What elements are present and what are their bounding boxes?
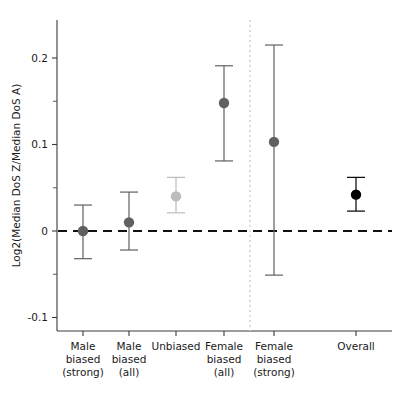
x-tick-label: Malebiased(all): [112, 340, 147, 378]
axes-layer: [52, 20, 392, 336]
figure-panel: 0.20.10-0.1Log2(Median DoS Z/Median DoS …: [0, 0, 398, 393]
data-point-group: [120, 192, 138, 250]
x-tick-label: Femalebiased(strong): [253, 340, 295, 378]
data-point-group: [347, 177, 365, 211]
y-axis-label: Log2(Median DoS Z/Median DoS A): [10, 84, 22, 268]
data-point-group: [215, 66, 233, 161]
data-point-marker: [351, 189, 361, 199]
data-point-marker: [124, 217, 134, 227]
data-point-marker: [269, 137, 279, 147]
data-point-group: [265, 45, 283, 275]
data-layer: [74, 45, 365, 275]
data-point-group: [167, 177, 185, 212]
x-tick-label: Malebiased(strong): [62, 340, 104, 378]
error-bar-plot: 0.20.10-0.1Log2(Median DoS Z/Median DoS …: [0, 0, 398, 393]
x-tick-label: Femalebiased(all): [205, 340, 243, 378]
x-tick-label: Unbiased: [152, 340, 201, 352]
y-tick-label: 0: [41, 225, 48, 237]
data-point-marker: [219, 98, 229, 108]
y-tick-label: -0.1: [28, 311, 49, 323]
y-tick-label: 0.1: [31, 138, 48, 150]
x-tick-label: Overall: [337, 340, 375, 352]
labels-layer: 0.20.10-0.1Log2(Median DoS Z/Median DoS …: [10, 52, 375, 379]
data-point-marker: [171, 191, 181, 201]
y-tick-label: 0.2: [31, 52, 48, 64]
data-point-marker: [78, 226, 88, 236]
